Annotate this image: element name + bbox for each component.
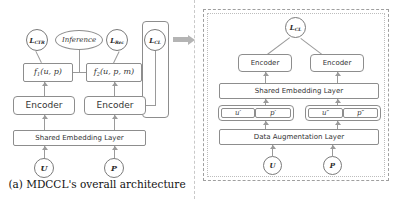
encoder-left-label: Encoder (26, 101, 63, 110)
view-2-p-label: p″ (357, 110, 364, 117)
view-1-p: p′ (255, 108, 291, 118)
data-augmentation-layer-label: Data Augmentation Layer (254, 134, 344, 141)
view-2-p: p″ (343, 108, 378, 118)
input-node-p: P (104, 158, 124, 178)
loss-node-ctr: LCTR (26, 29, 48, 51)
r-loss-cl-label: LCL (290, 23, 301, 32)
panel-separator (194, 0, 195, 199)
encoder-left: Encoder (13, 96, 75, 115)
shared-embedding-layer: Shared Embedding Layer (13, 130, 146, 146)
encoder-right-to-f2-arrow (112, 82, 118, 86)
cl-stem-line (155, 51, 156, 106)
r-u-to-dal-arrow (270, 145, 276, 149)
figure-caption: (a) MDCCL's overall architecture (0, 178, 194, 190)
p-to-sel-arrow (112, 146, 118, 150)
view-1-to-sel-arrow (263, 99, 269, 103)
f2-to-rec-line (113, 51, 120, 63)
f1-f2-join-line (73, 72, 86, 73)
r-encoder-left: Encoder (238, 54, 292, 72)
expand-arrow-shaft (173, 37, 189, 42)
u-to-sel-arrow (42, 146, 48, 150)
view-2-to-sel-arrow (335, 99, 341, 103)
view-1-u-label: u′ (235, 110, 241, 117)
loss-node-rec: LRec (106, 29, 128, 51)
inference-label: Inference (62, 37, 96, 44)
r-shared-embedding-layer: Shared Embedding Layer (219, 83, 379, 99)
r-encoder-right-label: Encoder (323, 60, 352, 67)
r-encoder-right: Encoder (310, 54, 364, 72)
inference-node: Inference (55, 30, 103, 50)
function-f1-label: f1(u, p) (34, 68, 62, 77)
loss-node-cl: LCL (144, 29, 166, 51)
input-u-label: U (41, 163, 48, 173)
dal-to-view-1-arrow (263, 121, 269, 125)
r-loss-node-cl: LCL (285, 17, 306, 38)
r-sel-to-encoder-right-arrow (335, 72, 341, 76)
view-1-p-label: p′ (270, 110, 276, 117)
encoder-right: Encoder (84, 96, 146, 115)
loss-rec-label: LRec (110, 36, 124, 45)
function-box-f1: f1(u, p) (23, 63, 73, 82)
r-p-to-dal-arrow (330, 145, 336, 149)
encoder-right-label: Encoder (97, 101, 134, 110)
r-input-node-p: P (323, 156, 342, 175)
sel-to-encoder-right-arrow (112, 115, 118, 119)
r-sel-to-encoder-left-arrow (263, 72, 269, 76)
figure-root: LCTR Inference LRec LCL f1(u, p) f2(u, p… (0, 0, 398, 199)
view-1-u: u′ (221, 108, 255, 118)
r-input-u-label: U (269, 161, 275, 170)
function-box-f2: f2(u, p, m) (86, 63, 142, 82)
r-shared-embedding-layer-label: Shared Embedding Layer (255, 88, 343, 95)
r-encoder-left-label: Encoder (251, 60, 280, 67)
view-2-u: u″ (308, 108, 343, 118)
inference-stem-line (79, 50, 80, 72)
f1-to-ctr-line (35, 51, 42, 63)
loss-ctr-label: LCTR (30, 36, 45, 45)
loss-cl-label: LCL (149, 36, 160, 45)
sel-to-encoder-left-arrow (42, 115, 48, 119)
input-p-label: P (111, 163, 117, 173)
r-input-node-u: U (263, 156, 282, 175)
data-augmentation-layer: Data Augmentation Layer (219, 129, 379, 145)
encoder-left-to-f1-arrow (42, 82, 48, 86)
function-f2-label: f2(u, p, m) (94, 68, 134, 77)
shared-embedding-layer-label: Shared Embedding Layer (35, 135, 123, 142)
view-2-u-label: u″ (322, 110, 329, 117)
dal-to-view-2-arrow (335, 121, 341, 125)
input-node-u: U (34, 158, 54, 178)
r-input-p-label: P (330, 161, 335, 170)
